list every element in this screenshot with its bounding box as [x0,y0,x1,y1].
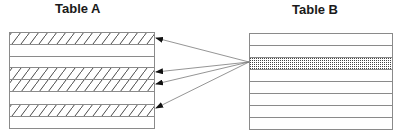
table-a-row-7-hatched [10,105,155,117]
table-a [10,33,155,129]
arrow-to-table-a-row-7 [156,62,249,108]
table-b-row-lines [250,46,393,118]
reference-arrows [156,38,249,108]
table-b [250,34,393,130]
arrow-to-table-a-row-4 [156,62,249,72]
diagram-canvas [0,0,398,138]
table-a-row-4-hatched [10,68,155,80]
arrow-to-table-a-row-1 [156,38,249,62]
arrow-to-table-a-row-5 [156,62,249,84]
table-a-row-5-hatched [10,80,155,92]
table-a-row-1-hatched [10,33,155,45]
table-b-row-3-dotted [250,58,393,70]
